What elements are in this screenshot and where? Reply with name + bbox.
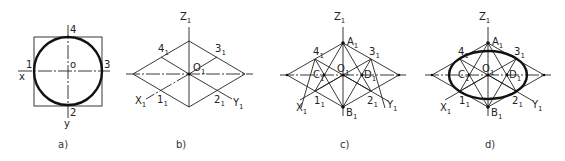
caption-d: d) (485, 139, 495, 150)
label-z1: Z1 (479, 11, 490, 25)
label-2-1: 21 (367, 95, 378, 109)
label-3-1: 31 (369, 46, 380, 60)
label-point-2: 2 (70, 107, 76, 118)
label-d1: D1 (509, 69, 521, 83)
point-left-vertex (286, 74, 289, 77)
label-3-1: 31 (215, 43, 226, 57)
point-right-vertex (543, 74, 546, 77)
label-a1: A1 (492, 36, 503, 50)
label-4-1: 41 (313, 46, 324, 60)
center-point (187, 72, 190, 75)
caption-a: a) (58, 139, 68, 150)
point-b1 (341, 105, 345, 109)
x1-axis-segment (301, 59, 315, 108)
y1-axis (189, 74, 232, 99)
label-x1: X1 (135, 95, 146, 109)
point-a1 (341, 41, 345, 45)
label-1-1: 11 (157, 94, 168, 108)
label-x1: X1 (296, 102, 307, 116)
isometric-ellipse-construction-figure: 1 x o 3 4 2 y a) Z1 41 31 O1 X1 11 21 Y1… (0, 0, 565, 161)
point-d1 (506, 74, 509, 77)
panel-b: Z1 41 31 O1 X1 11 21 Y1 b) (126, 11, 253, 150)
label-c1: C1 (313, 69, 324, 83)
label-2-1: 21 (214, 94, 225, 108)
caption-c: c) (340, 139, 349, 150)
label-4-1: 41 (158, 43, 169, 57)
label-b1: B1 (491, 107, 502, 121)
label-b1: B1 (346, 107, 357, 121)
point-a1 (486, 41, 490, 45)
line-4-o (161, 57, 189, 74)
label-y1: Y1 (531, 99, 543, 113)
label-y1: Y1 (232, 97, 244, 111)
point-b1 (486, 105, 490, 109)
point-left-vertex (431, 74, 434, 77)
panel-c: Z1 A1 41 31 C1 O1 D1 X1 11 21 Y1 B1 c) (280, 11, 406, 150)
label-y-axis: y (64, 118, 70, 129)
label-z1: Z1 (180, 11, 191, 25)
x1-axis (146, 74, 189, 99)
label-1-1: 11 (314, 95, 325, 109)
caption-b: b) (176, 139, 186, 150)
label-y1: Y1 (386, 99, 398, 113)
label-origin: o (70, 59, 76, 70)
label-x-axis: x (19, 71, 25, 82)
label-point-3: 3 (104, 59, 110, 70)
panel-d: Z1 A1 41 31 C1 O1 D1 X1 11 21 Y1 B1 d) (425, 11, 551, 150)
point-right-vertex (398, 74, 401, 77)
label-2-1: 21 (512, 95, 523, 109)
label-z1: Z1 (334, 11, 345, 25)
label-1-1: 11 (459, 95, 470, 109)
label-a1: A1 (347, 36, 358, 50)
panel-a: 1 x o 3 4 2 y a) (18, 24, 110, 150)
label-x1: X1 (440, 102, 451, 116)
point-d1 (361, 74, 364, 77)
label-point-4: 4 (70, 24, 76, 35)
label-c1: C1 (458, 69, 469, 83)
label-point-1: 1 (26, 59, 32, 70)
